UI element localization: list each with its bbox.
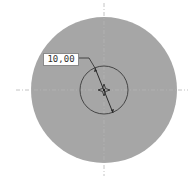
cad-drawing-canvas bbox=[0, 0, 195, 182]
dimension-value-label[interactable]: 10,00 bbox=[43, 53, 79, 66]
